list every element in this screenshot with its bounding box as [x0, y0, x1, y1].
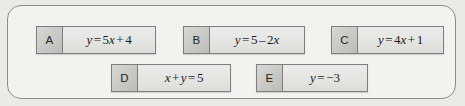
option-c[interactable]: C y=4x+1 — [331, 26, 444, 54]
option-e[interactable]: E y=−3 — [256, 64, 368, 92]
option-b-letter: B — [184, 27, 210, 53]
option-b[interactable]: B y=5–2x — [183, 26, 305, 54]
option-c-equation: y=4x+1 — [358, 27, 443, 53]
option-d-letter: D — [112, 65, 138, 91]
equation-option-bank: A y=5x+4 B y=5–2x C y=4x+1 D x+y=5 E y=−… — [7, 5, 456, 99]
option-b-equation: y=5–2x — [210, 27, 304, 53]
option-a-equation: y=5x+4 — [63, 27, 155, 53]
option-a[interactable]: A y=5x+4 — [36, 26, 156, 54]
option-d[interactable]: D x+y=5 — [111, 64, 231, 92]
option-e-letter: E — [257, 65, 283, 91]
option-d-equation: x+y=5 — [138, 65, 230, 91]
option-a-letter: A — [37, 27, 63, 53]
option-c-letter: C — [332, 27, 358, 53]
option-e-equation: y=−3 — [283, 65, 367, 91]
screenshot-root: A y=5x+4 B y=5–2x C y=4x+1 D x+y=5 E y=−… — [0, 0, 465, 106]
